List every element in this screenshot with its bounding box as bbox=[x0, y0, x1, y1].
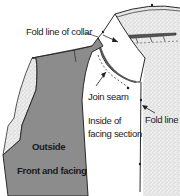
label-inside-of: Inside of bbox=[88, 115, 122, 126]
label-join-seam: Join seam bbox=[88, 91, 129, 102]
label-facing-section: facing section bbox=[88, 128, 142, 139]
label-front-and-facing: Front and facing bbox=[17, 165, 87, 176]
sewing-diagram: Fold line of collar Join seam Inside of … bbox=[0, 0, 180, 196]
label-fold-line: Fold line bbox=[145, 114, 178, 125]
label-fold-line-of-collar: Fold line of collar bbox=[26, 26, 92, 37]
label-outside: Outside bbox=[32, 141, 65, 152]
